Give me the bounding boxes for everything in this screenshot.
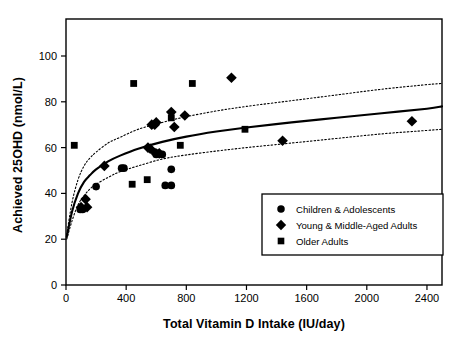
data-point-square [144, 176, 151, 183]
x-tick-label: 2000 [355, 292, 379, 304]
legend-marker-square [278, 238, 285, 245]
data-point-square [129, 181, 136, 188]
y-tick-label: 100 [39, 50, 57, 62]
x-tick-label: 400 [117, 292, 135, 304]
chart-canvas: 04008001200160020002400 020406080100 Tot… [0, 0, 455, 339]
data-point-square [71, 142, 78, 149]
data-point-circle [167, 166, 175, 174]
legend: Children & AdolescentsYoung & Middle-Age… [262, 194, 443, 255]
y-axis-title: Achieved 25OHD (nmol/L) [11, 77, 25, 233]
legend-label: Young & Middle-Aged Adults [296, 220, 417, 231]
x-tick-label: 0 [63, 292, 69, 304]
x-tick-label: 800 [177, 292, 195, 304]
x-tick-label: 1600 [294, 292, 318, 304]
x-tick-label: 2400 [415, 292, 439, 304]
x-axis-title: Total Vitamin D Intake (IU/day) [163, 317, 345, 331]
data-point-circle [92, 183, 100, 191]
x-tick-label: 1200 [234, 292, 258, 304]
data-point-square [130, 80, 137, 87]
y-tick-label: 60 [45, 142, 57, 154]
y-tick-label: 20 [45, 233, 57, 245]
legend-label: Children & Adolescents [296, 204, 395, 215]
data-point-circle [120, 164, 128, 172]
y-tick-label: 80 [45, 96, 57, 108]
data-point-square [242, 126, 249, 133]
y-tick-label: 0 [51, 279, 57, 291]
y-tick-label: 40 [45, 187, 57, 199]
data-point-square [177, 142, 184, 149]
legend-marker-circle [277, 205, 284, 212]
legend-label: Older Adults [296, 236, 348, 247]
figure-background [0, 0, 455, 339]
data-point-square [189, 80, 196, 87]
scatter-plot-figure: 04008001200160020002400 020406080100 Tot… [0, 0, 455, 339]
data-point-square [79, 205, 86, 212]
data-point-square [168, 114, 175, 121]
data-point-circle [161, 182, 169, 190]
